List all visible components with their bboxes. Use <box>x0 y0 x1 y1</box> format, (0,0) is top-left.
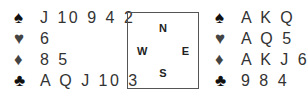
spade-icon: ♠ <box>14 9 40 26</box>
west-diamonds-cards: 8 5 <box>40 51 70 69</box>
west-spades-row: ♠ J 10 9 4 2 <box>14 7 140 28</box>
west-hearts-row: ♥ 6 <box>14 28 140 49</box>
east-hand: ♠ A K Q ♥ A Q 5 ♦ A K J 6 ♣ 9 8 4 <box>215 7 308 91</box>
west-clubs-cards: A Q J 10 3 <box>40 72 140 90</box>
spade-icon: ♠ <box>215 9 241 26</box>
diamond-icon: ♦ <box>14 51 40 68</box>
compass-south: S <box>159 67 166 79</box>
compass-east: E <box>182 45 189 57</box>
west-hearts-cards: 6 <box>40 30 51 48</box>
club-icon: ♣ <box>14 72 40 89</box>
compass-north: N <box>159 22 167 34</box>
east-hearts-cards: A Q 5 <box>241 30 294 48</box>
east-clubs-row: ♣ 9 8 4 <box>215 70 308 91</box>
west-spades-cards: J 10 9 4 2 <box>40 9 135 27</box>
club-icon: ♣ <box>215 72 241 89</box>
heart-icon: ♥ <box>215 30 241 47</box>
east-clubs-cards: 9 8 4 <box>241 72 289 90</box>
compass-west: W <box>137 45 147 57</box>
compass-box: N W E S <box>127 12 199 89</box>
west-hand: ♠ J 10 9 4 2 ♥ 6 ♦ 8 5 ♣ A Q J 10 3 <box>14 7 140 91</box>
west-diamonds-row: ♦ 8 5 <box>14 49 140 70</box>
heart-icon: ♥ <box>14 30 40 47</box>
east-diamonds-cards: A K J 6 <box>241 51 308 69</box>
east-diamonds-row: ♦ A K J 6 <box>215 49 308 70</box>
diamond-icon: ♦ <box>215 51 241 68</box>
east-spades-cards: A K Q <box>241 9 295 27</box>
east-hearts-row: ♥ A Q 5 <box>215 28 308 49</box>
east-spades-row: ♠ A K Q <box>215 7 308 28</box>
west-clubs-row: ♣ A Q J 10 3 <box>14 70 140 91</box>
